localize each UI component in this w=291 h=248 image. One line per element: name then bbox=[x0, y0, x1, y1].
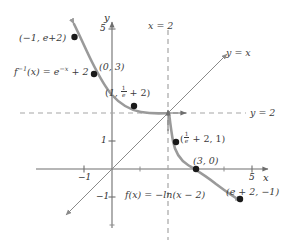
point-marker bbox=[71, 34, 77, 40]
fraction-one-over-e: 1e bbox=[121, 85, 127, 98]
x-axis-label: x bbox=[263, 173, 269, 183]
point-label-0-3: (0, 3) bbox=[99, 62, 125, 72]
identity-line-label: y = x bbox=[226, 48, 251, 58]
y-tick-label-5: 5 bbox=[100, 24, 106, 33]
f-inverse-eq-mid: (x) = e bbox=[27, 66, 59, 77]
x-tick-label-5: 5 bbox=[249, 173, 255, 182]
point-label-1-inv-e-plus-2: (1, 1e + 2) bbox=[105, 85, 150, 98]
f-inverse-eq-sup: −1 bbox=[18, 65, 28, 73]
point-marker bbox=[193, 166, 199, 172]
f-equation-label: f(x) = −ln(x − 2) bbox=[125, 190, 205, 200]
f-inverse-eq-tail: + 2 bbox=[72, 66, 89, 77]
f-eq-lhs: f(x) = bbox=[125, 189, 152, 200]
y-axis bbox=[109, 22, 116, 228]
point-label-e-plus-2-neg1: (e + 2, −1) bbox=[226, 187, 279, 197]
f-eq-rhs: −ln(x − 2) bbox=[155, 189, 205, 200]
fraction-one-over-e: 1e bbox=[184, 131, 190, 144]
x-axis bbox=[36, 166, 268, 173]
point-marker bbox=[173, 139, 179, 145]
y-tick-label-neg1: −1 bbox=[96, 192, 109, 201]
point-label-neg1-e-plus-2: (−1, e+2) bbox=[19, 33, 66, 43]
point-label-3-0: (3, 0) bbox=[193, 156, 219, 166]
y-axis-label: y bbox=[104, 13, 110, 23]
x-tick-label-neg1: −1 bbox=[78, 173, 91, 182]
f-inverse-equation-label: f−1(x) = e−x + 2 bbox=[14, 66, 89, 77]
point-marker bbox=[131, 103, 137, 109]
point-label-inv-e-plus-2-1: (1e + 2, 1) bbox=[180, 131, 225, 144]
graph-figure: y x 5 1 −1 −1 5 x = 2 y = 2 y = x f−1(x)… bbox=[0, 0, 291, 248]
f-inverse-eq-exp: −x bbox=[59, 65, 68, 73]
point-marker bbox=[91, 71, 97, 77]
y-tick-label-1: 1 bbox=[101, 136, 107, 145]
vertical-asymptote-label: x = 2 bbox=[148, 21, 173, 31]
horizontal-asymptote-label: y = 2 bbox=[250, 108, 275, 118]
